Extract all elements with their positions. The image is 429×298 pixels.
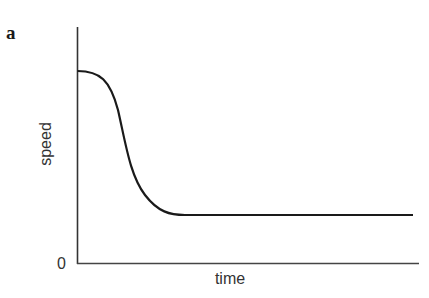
speed-curve [78,71,414,215]
chart-plot [0,0,429,298]
